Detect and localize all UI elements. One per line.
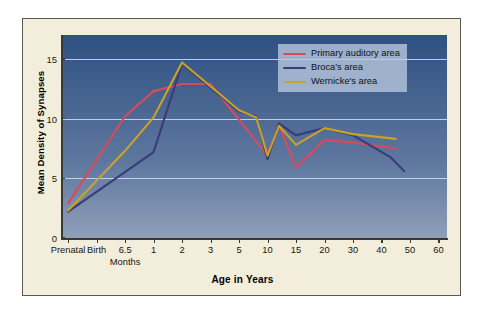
x-axis-months-sublabel: Months: [110, 257, 141, 267]
x-axis-title: Age in Years: [23, 274, 462, 285]
y-axis-line: [61, 35, 63, 239]
x-axis-line: [61, 238, 448, 240]
x-tick-mark: [381, 238, 382, 243]
x-tick-mark: [410, 238, 411, 243]
x-tick-mark: [438, 238, 439, 243]
x-tick-mark: [268, 238, 269, 243]
x-tick-mark: [211, 238, 212, 243]
x-tick-label: 30: [348, 245, 358, 255]
y-tick-mark: [61, 118, 65, 119]
x-tick-mark: [68, 238, 69, 243]
legend-label: Wernicke's area: [311, 77, 377, 86]
legend-item: Broca's area: [283, 62, 400, 74]
y-tick-mark: [61, 237, 65, 238]
chart-panel: Primary auditory areaBroca's areaWernick…: [22, 18, 461, 296]
legend-item: Wernicke's area: [283, 76, 400, 88]
x-tick-mark: [239, 238, 240, 243]
x-tick-label: 20: [319, 245, 329, 255]
x-tick-mark: [353, 238, 354, 243]
y-tick-mark: [61, 58, 65, 59]
x-tick-label: 3: [208, 245, 213, 255]
legend-label: Primary auditory area: [311, 49, 400, 58]
x-tick-label: 10: [262, 245, 272, 255]
series-line: [68, 84, 396, 203]
x-tick-label: 60: [433, 245, 443, 255]
x-tick-mark: [97, 238, 98, 243]
y-axis-title: Mean Density of Synapses: [35, 53, 46, 213]
chart-figure: Primary auditory areaBroca's areaWernick…: [0, 0, 483, 313]
legend-color-swatch: [283, 81, 306, 84]
legend-color-swatch: [283, 67, 306, 70]
x-tick-mark: [296, 238, 297, 243]
x-tick-mark: [154, 238, 155, 243]
y-tick-label: 0: [31, 233, 57, 244]
x-tick-mark: [325, 238, 326, 243]
y-tick-mark: [61, 178, 65, 179]
plot-wrapper: Primary auditory areaBroca's areaWernick…: [61, 35, 447, 238]
x-tick-label: 5: [236, 245, 241, 255]
chart-legend: Primary auditory areaBroca's areaWernick…: [278, 44, 407, 92]
x-tick-mark: [182, 238, 183, 243]
x-tick-label: 6.5: [119, 245, 132, 255]
x-tick-label: 1: [151, 245, 156, 255]
x-tick-label: 50: [405, 245, 415, 255]
legend-color-swatch: [283, 53, 306, 56]
x-tick-label: 2: [179, 245, 184, 255]
x-tick-label: Birth: [87, 245, 106, 255]
x-tick-mark: [125, 238, 126, 243]
legend-label: Broca's area: [311, 63, 363, 72]
x-tick-label: 15: [291, 245, 301, 255]
x-tick-label: Prenatal: [51, 245, 86, 255]
legend-item: Primary auditory area: [283, 48, 400, 60]
x-tick-label: 40: [376, 245, 386, 255]
